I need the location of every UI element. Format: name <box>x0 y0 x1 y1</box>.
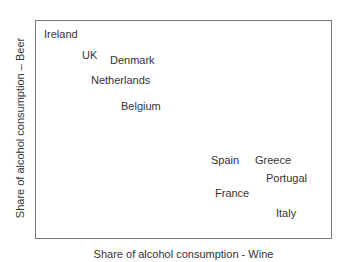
point-label: Netherlands <box>91 75 150 86</box>
point-label: Belgium <box>121 101 161 112</box>
point-label: Italy <box>276 208 296 219</box>
y-axis-label: Share of alcohol consumption – Beer <box>14 38 26 218</box>
point-label: Spain <box>211 155 239 166</box>
point-label: Ireland <box>44 29 78 40</box>
point-label: Portugal <box>266 173 307 184</box>
point-label: France <box>215 188 249 199</box>
point-label: Greece <box>255 155 291 166</box>
x-axis-label: Share of alcohol consumption - Wine <box>35 248 332 260</box>
point-label: UK <box>82 50 97 61</box>
point-label: Denmark <box>110 55 155 66</box>
